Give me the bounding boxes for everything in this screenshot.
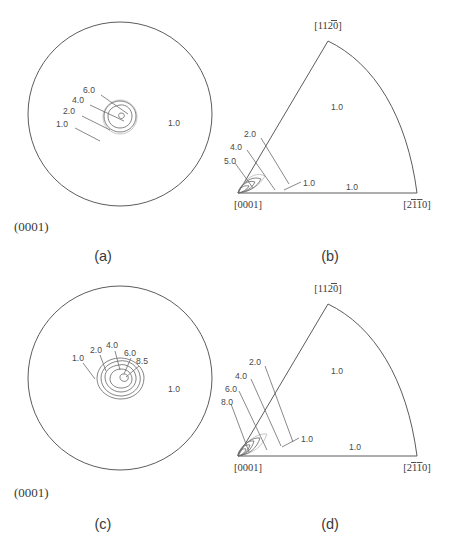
contour-label-8-d: 8.0	[221, 397, 233, 407]
ipf-edge-left-b	[238, 41, 328, 193]
pole-figure-outline-a	[28, 22, 212, 206]
contour-label-2-d: 2.0	[249, 357, 261, 367]
contour-level-2-b	[238, 178, 261, 193]
contour-level-2-a	[104, 101, 136, 132]
panel-b: 2.0 4.0 5.0 1.0 1.0 1.0 [1120] [0001] [2…	[227, 0, 454, 268]
contour-label-5-b: 5.0	[224, 156, 236, 166]
contour-label-2-a: 2.0	[63, 106, 75, 116]
interior-label-1-d: 1.0	[301, 434, 313, 444]
plane-label-a: (0001)	[14, 219, 49, 234]
panel-letter-b: (b)	[321, 248, 339, 264]
ipf-edge-right-d	[328, 304, 417, 456]
contour-level-2-c	[101, 361, 140, 396]
interior-label-2-b: 1.0	[346, 182, 358, 192]
panel-letter-d: (d)	[321, 516, 339, 532]
contour-level-85-c	[120, 374, 128, 381]
corner-label-bottom-left-b: [0001]	[234, 199, 262, 210]
leader-line-1-a	[75, 128, 100, 141]
contour-label-2-b: 2.0	[244, 129, 256, 139]
plane-label-c: (0001)	[14, 485, 49, 500]
panel-letter-c: (c)	[95, 516, 112, 532]
leader-line-2-b	[261, 138, 289, 184]
corner-label-bottom-right-b: [2110]	[403, 199, 431, 210]
leader-line-1-c	[83, 363, 95, 379]
contour-label-1-c: 1.0	[72, 353, 84, 363]
contour-label-6-d: 6.0	[225, 384, 237, 394]
contour-level-1-b	[238, 174, 265, 193]
ipf-edge-right-b	[328, 41, 417, 193]
contour-level-6-a	[119, 113, 125, 119]
contour-level-6-c	[110, 369, 132, 388]
interior-label-1-b: 1.0	[303, 178, 315, 188]
interior-label-3-b: 1.0	[331, 102, 343, 112]
contour-label-4-b: 4.0	[230, 142, 242, 152]
contour-label-2-c: 2.0	[90, 345, 102, 355]
leader-line-1-b	[284, 182, 301, 190]
contour-label-4-a: 4.0	[72, 95, 84, 105]
corner-label-top-b: [1120]	[314, 20, 342, 31]
leader-line-1-d	[282, 438, 299, 447]
background-label-c: 1.0	[168, 384, 180, 394]
corner-label-bottom-right-d: [2110]	[403, 462, 431, 473]
contour-label-85-c: 8.5	[136, 356, 148, 366]
contour-label-4-c: 4.0	[106, 340, 118, 350]
figure-pole-figures: 1.0 2.0 4.0 6.0 1.0 (0001) (a) 2.0	[0, 0, 454, 537]
interior-label-3-d: 1.0	[331, 366, 343, 376]
contour-label-6-a: 6.0	[83, 85, 95, 95]
leader-line-8-d	[231, 404, 249, 452]
panel-c: 1.0 2.0 4.0 6.0 8.5 1.0 (0001) (c)	[0, 266, 227, 537]
background-label-a: 1.0	[168, 118, 180, 128]
contour-label-1-a: 1.0	[56, 119, 68, 129]
corner-label-top-d: [1120]	[314, 283, 342, 294]
contour-label-6-c: 6.0	[124, 348, 136, 358]
panel-letter-a: (a)	[94, 248, 112, 264]
panel-d: 2.0 4.0 6.0 8.0 1.0 1.0 1.0 [1120] [0001…	[227, 266, 454, 537]
contour-label-4-d: 4.0	[235, 371, 247, 381]
leader-line-6-c	[124, 358, 131, 374]
panel-a: 1.0 2.0 4.0 6.0 1.0 (0001) (a)	[0, 0, 227, 268]
interior-label-2-d: 1.0	[349, 442, 361, 452]
leader-line-4-c	[115, 351, 120, 370]
corner-label-bottom-left-d: [0001]	[234, 462, 262, 473]
